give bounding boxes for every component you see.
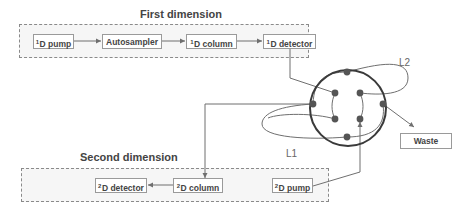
node-label: Waste — [414, 136, 439, 146]
node-2d-column: 2D column — [173, 178, 223, 193]
node-prefix: 2 — [275, 183, 278, 189]
first-dimension-title: First dimension — [140, 8, 222, 20]
node-prefix: 2 — [98, 183, 101, 189]
node-label: D column — [181, 183, 220, 193]
node-1d-detector: 1D detector — [263, 34, 316, 49]
connector-layer — [0, 0, 471, 216]
node-label: Autosampler — [106, 37, 158, 47]
node-2d-detector: 2D detector — [95, 178, 147, 193]
node-1d-column: 1D column — [186, 34, 237, 49]
loop-label-l2: L2 — [399, 57, 410, 68]
node-autosampler: Autosampler — [102, 34, 162, 49]
node-1d-pump: 1D pump — [33, 34, 74, 49]
node-prefix: 1 — [36, 39, 39, 45]
node-label: D column — [194, 39, 233, 49]
loop-label-l1: L1 — [286, 148, 297, 159]
node-prefix: 2 — [177, 183, 180, 189]
node-label: D detector — [102, 183, 144, 193]
node-label: D detector — [270, 39, 312, 49]
node-label: D pump — [40, 39, 72, 49]
node-2d-pump: 2D pump — [272, 178, 313, 193]
diagram-canvas: First dimension Second dimension 1D pump… — [0, 0, 471, 216]
node-waste: Waste — [400, 133, 452, 149]
second-dimension-title: Second dimension — [80, 151, 178, 163]
node-label: D pump — [279, 183, 311, 193]
